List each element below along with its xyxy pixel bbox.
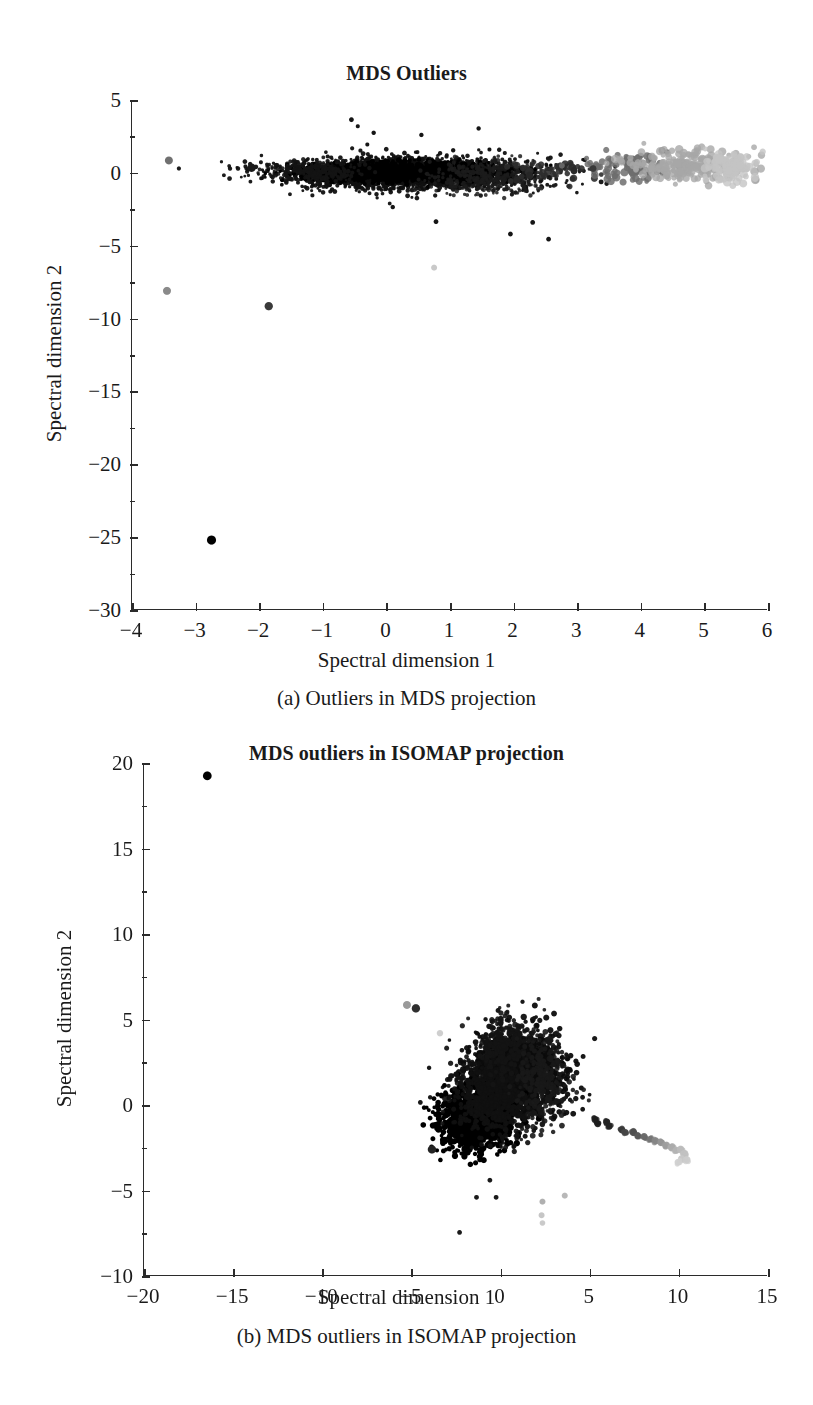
x-tick-label: 15	[757, 1284, 778, 1309]
x-tick-mark	[514, 603, 516, 611]
x-tick-mark	[679, 1269, 681, 1277]
x-tick-label: 5	[583, 1284, 594, 1309]
y-tick-mark	[142, 934, 150, 936]
y-minor-tick-mark	[130, 136, 135, 138]
y-tick-label: −25	[59, 525, 121, 550]
x-tick-mark	[386, 603, 388, 611]
x-tick-mark	[411, 1269, 413, 1277]
y-tick-label: 0	[71, 1093, 133, 1118]
y-tick-label: −30	[59, 598, 121, 623]
panel-a-scatter-canvas	[132, 100, 768, 610]
x-tick-label: 10	[667, 1284, 688, 1309]
x-tick-label: −1	[311, 618, 333, 643]
y-tick-mark	[130, 246, 138, 248]
y-tick-mark	[142, 1191, 150, 1193]
panel-a-title: MDS Outliers	[0, 62, 813, 85]
y-minor-tick-mark	[142, 1062, 147, 1064]
y-tick-mark	[130, 173, 138, 175]
x-tick-label: 0	[380, 618, 391, 643]
x-tick-label: −4	[120, 618, 142, 643]
x-tick-mark	[450, 603, 452, 611]
y-minor-tick-mark	[142, 977, 147, 979]
x-tick-mark	[323, 603, 325, 611]
y-minor-tick-mark	[130, 428, 135, 430]
x-tick-label: −2	[247, 618, 269, 643]
y-minor-tick-mark	[142, 891, 147, 893]
y-minor-tick-mark	[130, 501, 135, 503]
y-tick-label: 0	[59, 160, 121, 185]
x-tick-label: 1	[444, 618, 455, 643]
y-tick-mark	[142, 849, 150, 851]
y-tick-mark	[130, 100, 138, 102]
x-tick-mark	[196, 603, 198, 611]
y-tick-label: −20	[59, 452, 121, 477]
x-tick-mark	[501, 1269, 503, 1277]
y-tick-label: −5	[71, 1178, 133, 1203]
figure-panel-a: MDS Outliers Spectral dimension 1 Spectr…	[0, 0, 813, 702]
x-tick-label: −5	[399, 1284, 421, 1309]
y-tick-mark	[130, 391, 138, 393]
y-tick-label: −10	[59, 306, 121, 331]
panel-b-caption: (b) MDS outliers in ISOMAP projection	[0, 1324, 813, 1349]
x-tick-mark	[322, 1269, 324, 1277]
panel-b-plot-area	[143, 763, 767, 1276]
panel-b-scatter-canvas	[144, 763, 768, 1276]
panel-a-xaxis-label: Spectral dimension 1	[0, 648, 813, 673]
x-tick-label: −15	[216, 1284, 249, 1309]
x-tick-label: 3	[571, 618, 582, 643]
x-tick-mark	[768, 1269, 770, 1277]
y-tick-label: 10	[71, 922, 133, 947]
x-tick-mark	[259, 603, 261, 611]
y-minor-tick-mark	[142, 1233, 147, 1235]
x-tick-mark	[641, 603, 643, 611]
x-tick-mark	[144, 1269, 146, 1277]
x-tick-mark	[768, 603, 770, 611]
y-tick-mark	[130, 464, 138, 466]
x-tick-mark	[590, 1269, 592, 1277]
figure-page: MDS Outliers Spectral dimension 1 Spectr…	[0, 0, 813, 1405]
x-tick-label: −3	[183, 618, 205, 643]
y-tick-label: 5	[71, 1007, 133, 1032]
y-tick-mark	[142, 763, 150, 765]
y-tick-mark	[130, 319, 138, 321]
x-tick-mark	[233, 1269, 235, 1277]
panel-a-plot-area	[131, 100, 767, 610]
x-tick-label: 5	[698, 618, 709, 643]
x-tick-label: −10	[305, 1284, 338, 1309]
x-tick-label: 6	[762, 618, 773, 643]
figure-panel-b: MDS outliers in ISOMAP projection Spectr…	[0, 702, 813, 1405]
x-tick-mark	[704, 603, 706, 611]
y-tick-mark	[142, 1020, 150, 1022]
y-tick-label: 5	[59, 88, 121, 113]
x-tick-mark	[577, 603, 579, 611]
y-tick-mark	[130, 537, 138, 539]
x-tick-label: 4	[635, 618, 646, 643]
y-tick-label: −5	[59, 233, 121, 258]
x-tick-label: 0	[494, 1284, 505, 1309]
y-minor-tick-mark	[142, 806, 147, 808]
y-tick-label: −10	[71, 1264, 133, 1289]
y-tick-label: 15	[71, 836, 133, 861]
y-minor-tick-mark	[130, 574, 135, 576]
x-tick-mark	[132, 603, 134, 611]
x-tick-label: −20	[127, 1284, 160, 1309]
y-tick-label: −15	[59, 379, 121, 404]
y-minor-tick-mark	[130, 209, 135, 211]
y-minor-tick-mark	[142, 1148, 147, 1150]
y-tick-mark	[142, 1105, 150, 1107]
y-tick-label: 20	[71, 751, 133, 776]
x-tick-label: 2	[507, 618, 518, 643]
y-minor-tick-mark	[130, 355, 135, 357]
y-minor-tick-mark	[130, 282, 135, 284]
